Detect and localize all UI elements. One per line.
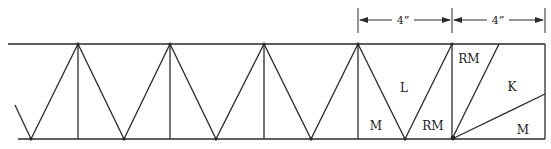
joints: [29, 42, 455, 140]
arrow-right-icon: [535, 17, 544, 23]
region-label-K: K: [508, 80, 518, 94]
region-label-RM-bottom: RM: [422, 119, 443, 133]
region-label-M-left: M: [370, 119, 382, 133]
region-label-L: L: [400, 81, 408, 95]
end-panel-low-diagonal: [452, 94, 545, 139]
zigzag-webs: [31, 44, 452, 139]
region-label-M-right: M: [517, 123, 529, 137]
dimension-annotations: [358, 8, 545, 33]
arrow-right-icon: [442, 17, 451, 23]
arrow-left-icon: [453, 17, 462, 23]
region-label-RM-top: RM: [458, 52, 479, 66]
left-stub-web: [15, 105, 31, 139]
dimension-label-1: 4”: [397, 14, 410, 27]
arrow-left-icon: [359, 17, 368, 23]
dimension-label-2: 4”: [492, 14, 505, 27]
truss-diagram: 4” 4” L M RM RM K M: [0, 0, 551, 149]
